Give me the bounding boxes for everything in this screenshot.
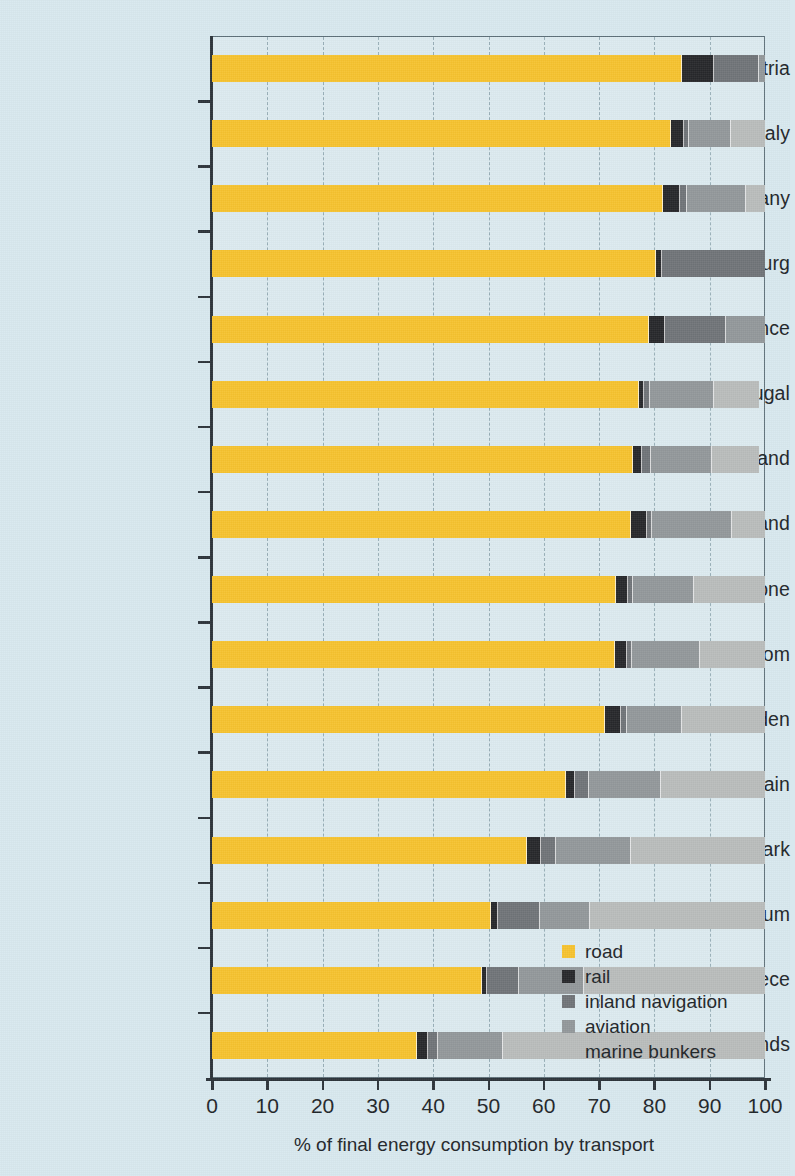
bar-segment-inland-navigation <box>665 316 726 343</box>
bar-segment-road <box>212 837 527 864</box>
y-axis-tick <box>198 686 211 689</box>
y-axis-tick <box>198 882 211 885</box>
x-axis-tick-label-30: 30 <box>348 1094 408 1118</box>
y-axis-tick <box>198 296 211 299</box>
bar-segment-road <box>212 511 631 538</box>
bar-segment-inland-navigation <box>541 837 556 864</box>
y-axis-tick <box>198 556 211 559</box>
bar-segment-aviation <box>627 706 682 733</box>
x-axis-tick-label-60: 60 <box>514 1094 574 1118</box>
bar-segment-marine-bunkers <box>714 381 760 408</box>
bar-segment-road <box>212 771 566 798</box>
bar-segment-road <box>212 316 649 343</box>
legend-swatch-marine-bunkers-icon <box>562 1045 575 1058</box>
bar-segment-rail <box>566 771 575 798</box>
bar-segment-inland-navigation <box>487 967 519 994</box>
x-axis-tick-label-20: 20 <box>293 1094 353 1118</box>
bar-segment-rail <box>656 250 663 277</box>
bar-segment-aviation <box>650 381 714 408</box>
bar-segment-marine-bunkers <box>694 576 765 603</box>
x-axis-tick-60 <box>543 1078 546 1090</box>
bar-segment-road <box>212 641 615 668</box>
bar-segment-rail <box>671 120 684 147</box>
bar-portugal <box>212 381 759 408</box>
bar-segment-marine-bunkers <box>590 902 765 929</box>
bar-segment-aviation <box>687 185 746 212</box>
bar-segment-aviation <box>633 576 694 603</box>
bar-sweden <box>212 706 765 733</box>
bar-segment-road <box>212 120 671 147</box>
x-axis-tick-label-100: 100 <box>735 1094 795 1118</box>
bar-segment-road <box>212 185 663 212</box>
bar-segment-marine-bunkers <box>631 837 765 864</box>
bar-segment-rail <box>527 837 541 864</box>
bar-segment-aviation <box>589 771 661 798</box>
bar-segment-inland-navigation <box>662 250 765 277</box>
y-axis-tick <box>198 621 211 624</box>
bar-germany <box>212 185 765 212</box>
x-axis-tick-80 <box>653 1078 656 1090</box>
bar-segment-aviation <box>556 837 631 864</box>
x-axis-title: % of final energy consumption by transpo… <box>0 1134 790 1156</box>
bar-denmark <box>212 837 765 864</box>
legend-swatch-road-icon <box>562 945 575 958</box>
legend-swatch-aviation-icon <box>562 1020 575 1033</box>
y-axis-tick <box>198 361 211 364</box>
bar-segment-road <box>212 576 616 603</box>
y-axis-tick <box>198 947 211 950</box>
y-axis-tick <box>198 165 211 168</box>
bar-segment-aviation <box>726 316 765 343</box>
x-axis-tick-30 <box>377 1078 380 1090</box>
bar-segment-marine-bunkers <box>661 771 765 798</box>
bar-segment-inland-navigation <box>428 1032 438 1059</box>
bar-finland <box>212 446 759 473</box>
legend-label: inland navigation <box>585 992 728 1011</box>
y-axis-tick <box>198 230 211 233</box>
x-axis-title-text: % of final energy consumption by transpo… <box>136 1134 654 1155</box>
bar-segment-rail <box>615 641 627 668</box>
bar-segment-aviation <box>438 1032 503 1059</box>
bar-segment-aviation <box>689 120 730 147</box>
bar-segment-rail <box>649 316 666 343</box>
bar-segment-aviation <box>652 511 732 538</box>
bar-segment-aviation <box>632 641 699 668</box>
bar-segment-rail <box>417 1032 428 1059</box>
legend-swatch-rail-icon <box>562 970 575 983</box>
x-axis-tick-90 <box>709 1078 712 1090</box>
bar-segment-aviation <box>651 446 712 473</box>
x-axis-tick-label-10: 10 <box>237 1094 297 1118</box>
bar-segment-inland-navigation <box>498 902 539 929</box>
bar-spain <box>212 771 765 798</box>
bar-segment-inland-navigation <box>680 185 687 212</box>
bar-ireland <box>212 511 765 538</box>
bar-segment-rail <box>633 446 642 473</box>
bar-segment-marine-bunkers <box>700 641 765 668</box>
bar-austria <box>212 55 765 82</box>
y-axis-tick <box>198 751 211 754</box>
x-axis-tick-label-40: 40 <box>403 1094 463 1118</box>
legend-label: marine bunkers <box>585 1042 716 1061</box>
y-axis-tick <box>198 817 211 820</box>
bar-segment-inland-navigation <box>642 446 651 473</box>
bar-segment-rail <box>605 706 622 733</box>
bar-eurozone <box>212 576 765 603</box>
bar-segment-road <box>212 1032 417 1059</box>
bar-segment-road <box>212 381 639 408</box>
bar-segment-road <box>212 706 605 733</box>
bar-segment-rail <box>682 55 714 82</box>
legend-item-inland-navigation: inland navigation <box>562 989 728 1014</box>
x-axis-tick-label-0: 0 <box>182 1094 242 1118</box>
x-axis-tick-50 <box>488 1078 491 1090</box>
legend-swatch-inland-navigation-icon <box>562 995 575 1008</box>
bar-belgium <box>212 902 765 929</box>
bar-segment-rail <box>663 185 681 212</box>
x-axis-tick-label-70: 70 <box>569 1094 629 1118</box>
bar-segment-inland-navigation <box>575 771 589 798</box>
bar-segment-marine-bunkers <box>712 446 760 473</box>
y-axis-tick <box>198 1012 211 1015</box>
y-axis-tick <box>198 491 211 494</box>
bar-segment-rail <box>616 576 628 603</box>
x-axis-tick-label-80: 80 <box>624 1094 684 1118</box>
x-axis-tick-40 <box>432 1078 435 1090</box>
